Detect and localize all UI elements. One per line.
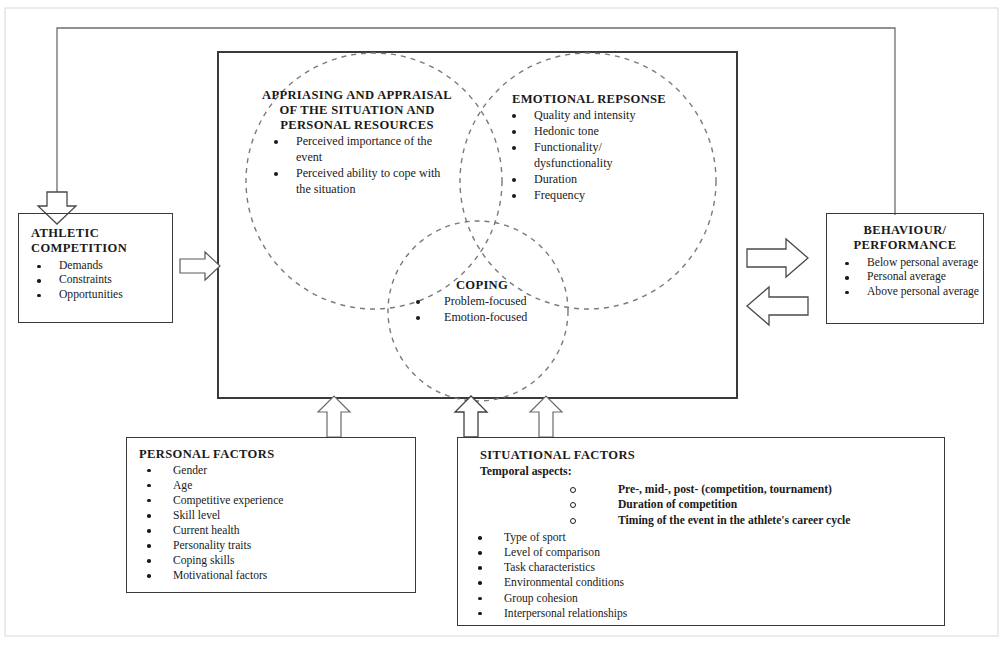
- behaviour-to-appraisal-arrow: [747, 287, 808, 325]
- list-item: Skill level: [127, 508, 415, 523]
- appraisal-to-behaviour-arrow: [747, 239, 808, 277]
- list-item: Duration of competition: [458, 497, 944, 513]
- venn-block-coping: COPING Problem-focused Emotion-focused: [404, 278, 534, 326]
- venn-item: Frequency: [500, 188, 678, 204]
- situational-factors-subheading: Temporal aspects:: [480, 464, 944, 480]
- list-item: Level of comparison: [458, 545, 944, 560]
- venn-item: Perceived importance of the event: [262, 134, 452, 166]
- personal-factors-box: PERSONAL FACTORS Gender Age Competitive …: [126, 437, 416, 593]
- venn-item: Problem-focused: [404, 294, 534, 310]
- list-item: Competitive experience: [127, 493, 415, 508]
- list-item: Personal average: [827, 270, 983, 285]
- list-item: Demands: [19, 259, 172, 274]
- athletic-competition-box: ATHLETIC COMPETITION Demands Constraints…: [18, 213, 173, 323]
- personal-factors-title: PERSONAL FACTORS: [139, 447, 415, 462]
- list-item: Timing of the event in the athlete's car…: [458, 513, 944, 529]
- behaviour-performance-box: BEHAVIOUR/ PERFORMANCE Below personal av…: [826, 213, 984, 324]
- athletic-competition-title: ATHLETIC COMPETITION: [31, 226, 172, 256]
- list-item: Motivational factors: [127, 568, 415, 583]
- venn-heading-coping: COPING: [404, 278, 534, 293]
- venn-item: Perceived ability to cope with the situa…: [262, 166, 452, 198]
- venn-item: Hedonic tone: [500, 124, 678, 140]
- list-item: Constraints: [19, 273, 172, 288]
- feedback-loop-connector: [38, 28, 895, 224]
- venn-list-emotional-response: Quality and intensity Hedonic tone Funct…: [500, 108, 678, 204]
- athletic-competition-list: Demands Constraints Opportunities: [19, 259, 172, 303]
- list-item: Personality traits: [127, 538, 415, 553]
- list-item: Coping skills: [127, 553, 415, 568]
- venn-item: Duration: [500, 172, 678, 188]
- situational-factors-list: Type of sport Level of comparison Task c…: [458, 530, 944, 620]
- list-item: Above personal average: [827, 285, 983, 300]
- behaviour-performance-list: Below personal average Personal average …: [827, 256, 983, 300]
- venn-list-appraisal: Perceived importance of the event Percei…: [262, 134, 452, 198]
- venn-list-coping: Problem-focused Emotion-focused: [404, 294, 534, 326]
- list-item: Pre-, mid-, post- (competition, tourname…: [458, 482, 944, 498]
- list-item: Type of sport: [458, 530, 944, 545]
- situational-temporal-list: Pre-, mid-, post- (competition, tourname…: [458, 482, 944, 529]
- list-item: Task characteristics: [458, 560, 944, 575]
- situational-factors-up-arrow-1: [455, 396, 487, 437]
- list-item: Environmental conditions: [458, 575, 944, 590]
- venn-item: Quality and intensity: [500, 108, 678, 124]
- venn-item: Functionality/ dysfunctionality: [500, 140, 678, 172]
- list-item: Opportunities: [19, 288, 172, 303]
- venn-heading-appraisal: APPRIASING AND APPRAISAL OF THE SITUATIO…: [262, 88, 452, 133]
- venn-block-emotional-response: EMOTIONAL REPSONSE Quality and intensity…: [500, 92, 678, 204]
- list-item: Current health: [127, 523, 415, 538]
- diagram-canvas: APPRIASING AND APPRAISAL OF THE SITUATIO…: [0, 0, 1005, 645]
- situational-factors-up-arrow-2: [530, 396, 562, 437]
- venn-item: Emotion-focused: [404, 310, 534, 326]
- personal-factors-up-arrow: [318, 396, 350, 437]
- list-item: Age: [127, 478, 415, 493]
- behaviour-performance-title: BEHAVIOUR/ PERFORMANCE: [827, 223, 983, 253]
- list-item: Interpersonal relationships: [458, 606, 944, 621]
- situational-factors-title: SITUATIONAL FACTORS: [480, 448, 944, 463]
- list-item: Group cohesion: [458, 591, 944, 606]
- venn-heading-emotional-response: EMOTIONAL REPSONSE: [500, 92, 678, 107]
- venn-block-appraisal: APPRIASING AND APPRAISAL OF THE SITUATIO…: [262, 88, 452, 198]
- personal-factors-list: Gender Age Competitive experience Skill …: [127, 463, 415, 584]
- list-item: Below personal average: [827, 256, 983, 271]
- situational-factors-box: SITUATIONAL FACTORS Temporal aspects: Pr…: [457, 437, 945, 626]
- list-item: Gender: [127, 463, 415, 478]
- competition-to-appraisal-arrow: [180, 252, 220, 280]
